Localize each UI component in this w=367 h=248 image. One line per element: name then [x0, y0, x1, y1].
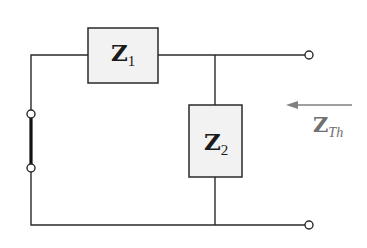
z2-label: Z2 [204, 128, 228, 159]
circuit-diagram: Z1 Z2 ZTh [0, 0, 367, 248]
thevenin-label: ZTh [313, 112, 343, 141]
output-terminal-top [305, 51, 313, 59]
thevenin-label-main: Z [313, 112, 328, 137]
wire-top-left [31, 55, 88, 110]
thevenin-label-subscript: Th [328, 125, 343, 140]
short-terminal-top [27, 110, 35, 118]
z1-label-subscript: 1 [128, 53, 136, 69]
z1-label-main: Z [111, 39, 128, 66]
wires [31, 55, 305, 225]
z2-label-main: Z [204, 128, 221, 155]
wire-bottom [31, 172, 305, 225]
short-terminal-bottom [27, 164, 35, 172]
output-terminal-bottom [305, 221, 313, 229]
circuit-canvas [0, 0, 367, 248]
z2-label-subscript: 2 [221, 142, 229, 158]
z1-label: Z1 [111, 39, 135, 70]
thevenin-arrow-head-icon [286, 101, 298, 109]
